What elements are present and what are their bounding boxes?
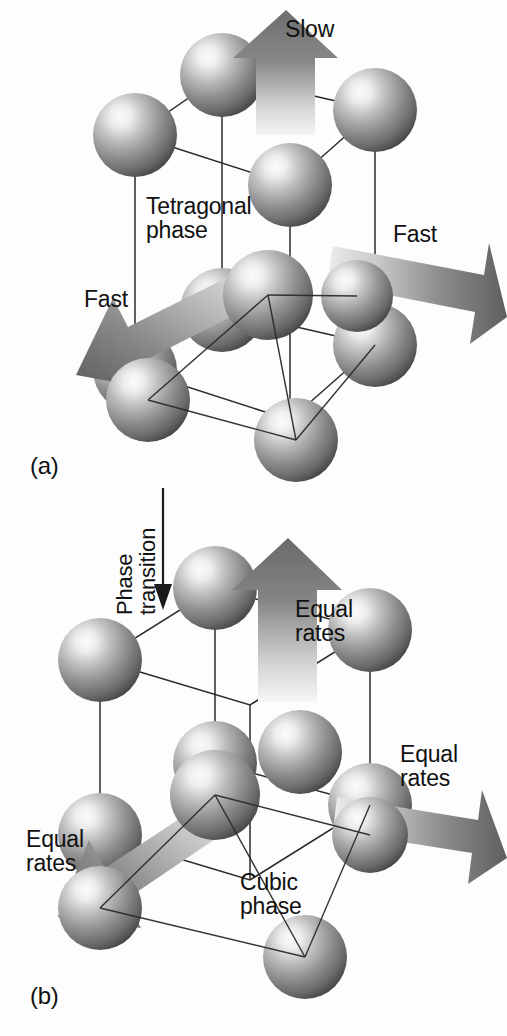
phase-transition-figure: Slow Tetragonal phase Fast Fast (a) Phas… xyxy=(0,0,507,1036)
label-tetragonal-phase: Tetragonal phase xyxy=(146,195,251,243)
label-cubic-phase: Cubic phase xyxy=(240,871,302,919)
label-equal-rates-right: Equal rates xyxy=(400,743,458,791)
panel-tetragonal: Slow Tetragonal phase Fast Fast (a) xyxy=(0,0,507,500)
tetragonal-lattice-illustration xyxy=(0,0,507,500)
sphere-corner xyxy=(333,68,417,152)
sphere-corner xyxy=(93,93,177,177)
label-fast-right: Fast xyxy=(393,223,437,247)
sphere-body-center-upper xyxy=(258,710,342,794)
panel-letter-a: (a) xyxy=(30,452,58,480)
sphere-corner xyxy=(58,618,142,702)
label-slow: Slow xyxy=(285,18,334,42)
panel-letter-b: (b) xyxy=(30,982,58,1010)
label-equal-rates-left: Equal rates xyxy=(26,828,84,876)
label-fast-left: Fast xyxy=(84,288,128,312)
label-equal-rates-top: Equal rates xyxy=(295,598,353,646)
sphere-body-center-upper xyxy=(248,143,332,227)
